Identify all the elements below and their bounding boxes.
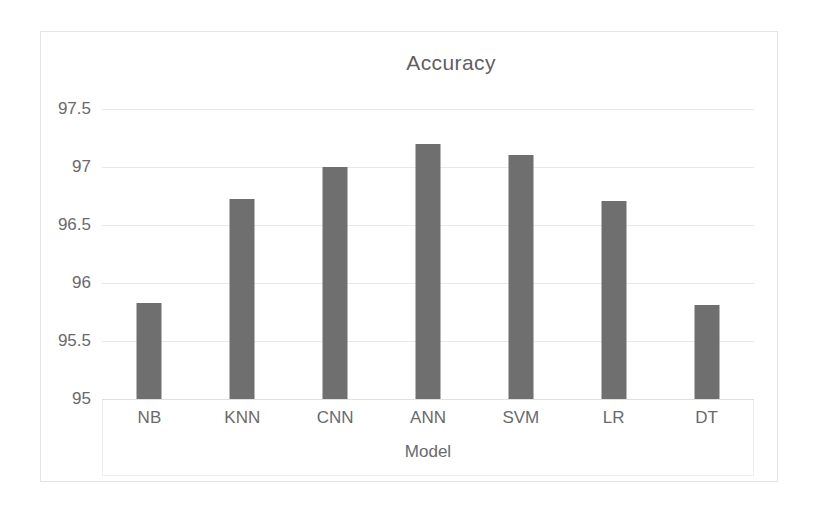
bar [322,167,347,399]
chart-title: Accuracy [82,51,813,75]
bar-slot [568,109,661,399]
bar-series [102,109,754,399]
bar-slot [381,109,474,399]
y-axis-tick-label: 97.5 [58,99,91,119]
bar-slot [102,109,195,399]
bar [602,201,627,399]
y-axis-tick-label: 95.5 [58,331,91,351]
y-axis-tick-label: 96 [72,273,91,293]
x-axis-category-band: NBKNNCNNANNSVMLRDT Model [102,400,754,476]
plot-area: 97.59796.59695.595 [102,109,754,399]
x-axis-tick-label: CNN [317,408,354,428]
y-axis-tick-label: 96.5 [58,215,91,235]
bar-slot [288,109,381,399]
x-axis-tick-label: NB [138,408,162,428]
bar [229,199,254,399]
bar-slot [661,109,754,399]
x-axis-title: Model [103,442,753,462]
chart-frame: Accuracy 97.59796.59695.595 NBKNNCNNANNS… [40,31,778,482]
x-axis-tick-label: LR [603,408,625,428]
y-axis-tick-label: 95 [72,389,91,409]
bar [695,305,720,399]
x-axis-tick-label: SVM [502,408,539,428]
bar-slot [195,109,288,399]
bar [509,155,534,399]
bar [136,303,161,399]
bar [415,144,440,399]
bar-slot [475,109,568,399]
y-axis-tick-label: 97 [72,157,91,177]
x-axis-tick-label: KNN [224,408,260,428]
x-axis-tick-label: DT [695,408,718,428]
x-axis-tick-label: ANN [410,408,446,428]
